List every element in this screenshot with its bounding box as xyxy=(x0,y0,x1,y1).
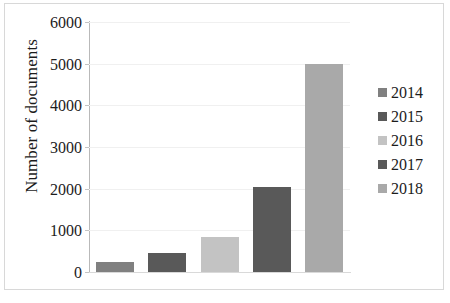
legend-swatch-icon xyxy=(378,136,387,145)
bar-2016 xyxy=(201,237,239,272)
plot-area xyxy=(89,22,350,272)
legend-swatch-icon xyxy=(378,160,387,169)
y-tick-label: 3000 xyxy=(18,139,82,157)
legend-label: 2018 xyxy=(391,181,423,197)
legend-label: 2014 xyxy=(391,85,423,101)
gridline xyxy=(89,22,350,23)
legend-label: 2016 xyxy=(391,133,423,149)
legend-label: 2017 xyxy=(391,157,423,173)
legend-swatch-icon xyxy=(378,112,387,121)
y-tick-label: 5000 xyxy=(18,56,82,74)
y-tick-label: 6000 xyxy=(18,14,82,32)
legend-item-2017[interactable]: 2017 xyxy=(378,154,442,175)
chart-legend: 20142015201620172018 xyxy=(378,82,442,202)
legend-item-2015[interactable]: 2015 xyxy=(378,106,442,127)
legend-swatch-icon xyxy=(378,88,387,97)
y-tick-label: 1000 xyxy=(18,222,82,240)
bar-2017 xyxy=(253,187,291,272)
y-tick-label: 0 xyxy=(18,264,82,282)
bar-2018 xyxy=(305,64,343,272)
legend-item-2014[interactable]: 2014 xyxy=(378,82,442,103)
bar-2015 xyxy=(148,253,186,272)
y-tick-label: 4000 xyxy=(18,97,82,115)
x-axis-baseline xyxy=(89,272,351,273)
legend-item-2018[interactable]: 2018 xyxy=(378,178,442,199)
legend-label: 2015 xyxy=(391,109,423,125)
legend-item-2016[interactable]: 2016 xyxy=(378,130,442,151)
y-tick-label: 2000 xyxy=(18,181,82,199)
bar-chart-figure: Number of documents 01000200030004000500… xyxy=(0,0,450,303)
bar-2014 xyxy=(96,262,134,272)
legend-swatch-icon xyxy=(378,184,387,193)
